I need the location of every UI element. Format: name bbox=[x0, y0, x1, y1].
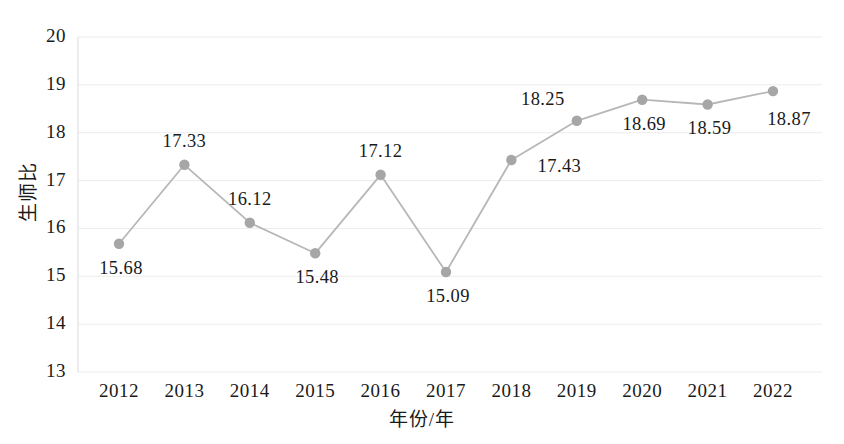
data-point-label: 15.48 bbox=[277, 267, 357, 288]
data-point-marker[interactable] bbox=[572, 116, 582, 126]
data-point-marker[interactable] bbox=[506, 155, 516, 165]
chart-plot-area bbox=[0, 0, 844, 444]
data-point-marker[interactable] bbox=[375, 170, 385, 180]
y-tick-label: 20 bbox=[20, 25, 66, 47]
y-tick-label: 15 bbox=[20, 264, 66, 286]
data-point-marker[interactable] bbox=[114, 239, 124, 249]
data-point-label: 17.33 bbox=[144, 131, 224, 152]
gridlines bbox=[78, 37, 822, 372]
y-tick-label: 14 bbox=[20, 312, 66, 334]
line-chart: 1314151617181920 20122013201420152016201… bbox=[0, 0, 844, 444]
data-point-label: 15.09 bbox=[408, 286, 488, 307]
data-point-label: 17.43 bbox=[519, 156, 599, 177]
data-point-label: 18.25 bbox=[503, 89, 583, 110]
data-point-marker[interactable] bbox=[768, 86, 778, 96]
x-tick-label: 2020 bbox=[607, 380, 677, 402]
data-point-marker[interactable] bbox=[310, 248, 320, 258]
x-tick-label: 2012 bbox=[84, 380, 154, 402]
data-point-marker[interactable] bbox=[179, 160, 189, 170]
y-tick-label: 13 bbox=[20, 360, 66, 382]
x-axis-title: 年份/年 bbox=[0, 404, 844, 431]
data-point-marker[interactable] bbox=[441, 267, 451, 277]
data-point-label: 18.87 bbox=[749, 109, 829, 130]
y-tick-label: 18 bbox=[20, 121, 66, 143]
data-point-marker[interactable] bbox=[637, 95, 647, 105]
y-axis-title: 生师比 bbox=[13, 144, 40, 240]
x-tick-label: 2022 bbox=[738, 380, 808, 402]
x-tick-label: 2019 bbox=[542, 380, 612, 402]
y-tick-label: 19 bbox=[20, 73, 66, 95]
x-tick-label: 2021 bbox=[673, 380, 743, 402]
data-point-label: 15.68 bbox=[81, 258, 161, 279]
x-tick-label: 2013 bbox=[149, 380, 219, 402]
data-point-marker[interactable] bbox=[702, 99, 712, 109]
data-point-label: 17.12 bbox=[341, 141, 421, 162]
x-tick-label: 2017 bbox=[411, 380, 481, 402]
x-tick-label: 2014 bbox=[215, 380, 285, 402]
data-point-label: 16.12 bbox=[210, 189, 290, 210]
data-point-marker[interactable] bbox=[245, 218, 255, 228]
x-tick-label: 2015 bbox=[280, 380, 350, 402]
data-point-label: 18.59 bbox=[670, 118, 750, 139]
x-tick-label: 2018 bbox=[476, 380, 546, 402]
x-tick-label: 2016 bbox=[346, 380, 416, 402]
